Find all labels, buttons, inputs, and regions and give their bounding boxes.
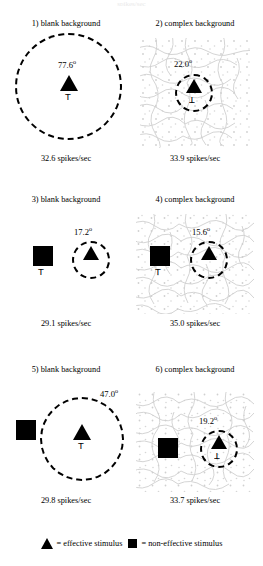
effective-stimulus-triangle — [83, 246, 99, 260]
panel-1-title: 1) blank background — [6, 20, 126, 28]
figure-legend: = effective stimulus = non-effective sti… — [0, 538, 263, 549]
effective-stimulus-triangle — [201, 246, 217, 260]
panel-1-rate: 32.6 spikes/sec — [6, 155, 126, 163]
panel-6-angle-value: 19.2 — [199, 416, 214, 426]
panel-6-rate: 33.7 spikes/sec — [134, 497, 256, 505]
degree-symbol-icon: o — [189, 57, 192, 64]
panel-4-angle-label: 15.6o — [192, 226, 210, 236]
panel-3-angle-value: 17.2 — [74, 227, 89, 237]
legend-non-effective-label: = non-effective stimulus — [141, 539, 222, 548]
effective-stimulus-triangle — [60, 75, 78, 91]
panel-2-angle-label: 22.0o — [174, 58, 192, 68]
effective-stimulus-triangle — [211, 435, 227, 449]
figure-root: spikes/sec 1) blank background 2) comple… — [0, 0, 263, 566]
non-effective-stimulus-square — [16, 420, 36, 440]
panel-4-angle-value: 15.6 — [192, 227, 207, 237]
panel-5-angle-label: 47.0o — [100, 388, 118, 398]
panel-2-t-marker: T — [189, 95, 195, 105]
triangle-icon — [41, 538, 53, 549]
square-icon — [128, 539, 137, 548]
legend-item-effective: = effective stimulus — [41, 538, 123, 549]
panel-6-title: 6) complex background — [134, 366, 256, 374]
degree-symbol-icon: o — [207, 225, 210, 232]
panel-5-rate: 29.8 spikes/sec — [6, 497, 126, 505]
degree-symbol-icon: o — [214, 414, 217, 421]
panel-2-rate: 33.9 spikes/sec — [134, 155, 256, 163]
non-effective-stimulus-square — [158, 438, 178, 458]
panel-6-angle-label: 19.2o — [199, 415, 217, 425]
non-effective-stimulus-square — [150, 246, 170, 266]
panel-3-rate: 29.1 spikes/sec — [6, 320, 126, 328]
panel-5-title: 5) blank background — [6, 366, 126, 374]
panel-4-title: 4) complex background — [134, 196, 256, 204]
panel-6-t-marker: T — [214, 451, 220, 461]
degree-symbol-icon: o — [115, 387, 118, 394]
degree-symbol-icon: o — [73, 58, 76, 65]
cropped-header-text: spikes/sec — [0, 0, 263, 6]
legend-item-non-effective: = non-effective stimulus — [128, 539, 222, 548]
panel-1-angle-value: 77.6 — [58, 60, 73, 70]
panel-4-t-marker: T — [155, 267, 161, 277]
panel-1-angle-label: 77.6o — [58, 59, 76, 69]
panel-5-t-marker: T — [78, 441, 84, 451]
panel-4-rate: 35.0 spikes/sec — [134, 320, 256, 328]
panel-1-t-marker: T — [65, 92, 71, 102]
panel-3-t-marker: T — [38, 267, 44, 277]
effective-stimulus-triangle — [186, 79, 202, 93]
panel-2-title: 2) complex background — [134, 20, 256, 28]
panel-3-title: 3) blank background — [6, 196, 126, 204]
non-effective-stimulus-square — [33, 246, 53, 266]
degree-symbol-icon: o — [89, 225, 92, 232]
effective-stimulus-triangle — [73, 424, 91, 440]
panel-2-angle-value: 22.0 — [174, 59, 189, 69]
legend-effective-label: = effective stimulus — [57, 539, 123, 548]
panel-3-angle-label: 17.2o — [74, 226, 92, 236]
panel-5-angle-value: 47.0 — [100, 389, 115, 399]
